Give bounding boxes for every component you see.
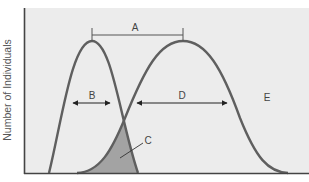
label-e: E bbox=[264, 92, 271, 103]
y-axis-label: Number of Individuals bbox=[1, 39, 13, 141]
label-a: A bbox=[132, 22, 139, 33]
label-b: B bbox=[89, 90, 96, 101]
label-c: C bbox=[144, 135, 151, 146]
diagram-canvas: A B D E C bbox=[0, 0, 309, 182]
label-d: D bbox=[178, 90, 185, 101]
distribution-diagram: Number of Individuals A bbox=[0, 0, 309, 182]
